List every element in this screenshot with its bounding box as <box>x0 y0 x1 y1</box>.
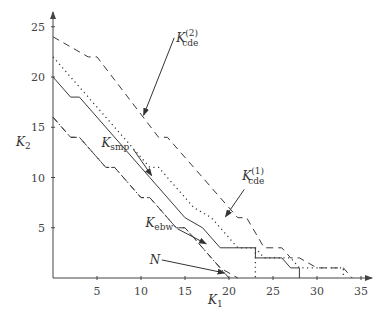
x-tick-label: 5 <box>94 285 101 298</box>
y-tick-label: 20 <box>31 71 45 84</box>
x-tick-label: 35 <box>354 285 368 298</box>
annotation-arrow <box>144 38 175 115</box>
x-tick-label: 10 <box>134 285 148 298</box>
axes: 5101520253035510152025 <box>31 12 372 298</box>
annotation-arrow <box>225 190 244 217</box>
annotation-n: N <box>149 253 161 267</box>
series-k-cde-1- <box>53 57 343 278</box>
y-tick-label: 15 <box>31 121 45 134</box>
x-tick-label: 15 <box>178 285 192 298</box>
x-tick-label: 30 <box>310 285 324 298</box>
y-tick-label: 25 <box>31 21 45 34</box>
annotation-k-cde-1-: K(1)cde <box>241 166 264 186</box>
annotations: K(2)cdeK(1)cdeKsmpKebwN <box>100 28 264 273</box>
chart: 5101520253035510152025 K(2)cdeK(1)cdeKsm… <box>0 0 389 327</box>
series-n <box>53 117 238 278</box>
y-tick-label: 10 <box>31 172 45 185</box>
x-tick-label: 20 <box>222 285 236 298</box>
y-axis-label: K2 <box>15 135 31 151</box>
annotation-k-cde-2-: K(2)cde <box>175 28 198 48</box>
x-tick-label: 25 <box>266 285 280 298</box>
y-tick-label: 5 <box>38 222 45 235</box>
annotation-k-ebw: Kebw <box>144 216 173 232</box>
annotation-arrow <box>162 260 225 273</box>
x-axis-label: K1 <box>207 293 223 309</box>
annotation-arrow <box>177 229 206 244</box>
